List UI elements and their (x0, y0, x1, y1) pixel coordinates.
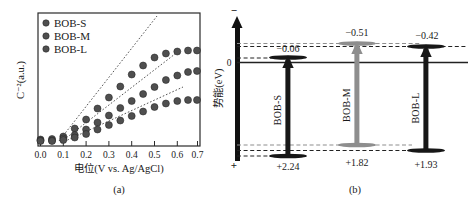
legend-marker-bob-l (43, 46, 49, 52)
bandgap-arrow-bob-l (420, 45, 431, 151)
panel-a-caption: (a) (113, 184, 125, 196)
bandgap-arrow-bob-s (282, 56, 293, 157)
x-tick-label: 0.0 (35, 150, 47, 160)
band-group-bob-m: −0.51 +1.82 BOB-M (338, 27, 376, 168)
x-tick-label: 0.7 (192, 150, 204, 160)
x-tick-label: 0.6 (171, 150, 183, 160)
cb-value-bob-l: −0.42 (415, 30, 438, 41)
legend-label-bob-m: BOB-M (54, 30, 90, 42)
figure-container: 0.0 0.1 0.2 0.3 0.4 0.5 0.6 0.7 电位(V vs.… (0, 0, 468, 204)
energy-axis (232, 16, 243, 161)
vb-value-bob-l: +1.93 (414, 159, 437, 170)
cb-value-bob-s: −0.06 (276, 43, 299, 54)
panel-b-caption: (b) (349, 184, 362, 196)
vb-value-bob-s: +2.24 (276, 161, 299, 172)
legend-label-bob-s: BOB-S (54, 17, 86, 29)
legend-label-bob-l: BOB-L (54, 43, 87, 55)
x-tick-label: 0.2 (80, 150, 92, 160)
y-axis-title: C⁻²(a.u.) (15, 61, 27, 99)
material-label-bob-s: BOB-S (272, 95, 283, 125)
panel-a: 0.0 0.1 0.2 0.3 0.4 0.5 0.6 0.7 电位(V vs.… (15, 13, 204, 196)
legend-marker-bob-s (43, 20, 49, 26)
axis-zero-label: 0 (227, 58, 232, 68)
x-axis-title: 电位(V vs. Ag/AgCl) (74, 162, 164, 175)
vb-value-bob-m: +1.82 (345, 157, 368, 168)
panel-b: 势能(eV) − 0 + (212, 4, 468, 196)
x-tick-label: 0.1 (57, 150, 69, 160)
x-tick-label: 0.5 (149, 150, 161, 160)
band-group-bob-l: −0.42 +1.93 BOB-L (407, 30, 445, 170)
x-tick-label: 0.3 (103, 150, 115, 160)
axis-top-sign: − (231, 4, 237, 16)
x-tick-label: 0.4 (126, 150, 138, 160)
x-tick-labels: 0.0 0.1 0.2 0.3 0.4 0.5 0.6 0.7 (35, 150, 204, 160)
material-label-bob-l: BOB-L (410, 93, 421, 124)
panel-b-y-axis-title: 势能(eV) (212, 68, 225, 108)
material-label-bob-m: BOB-M (341, 88, 352, 122)
legend-marker-bob-m (43, 33, 49, 39)
cb-value-bob-m: −0.51 (345, 27, 368, 38)
bandgap-arrow-bob-m (351, 42, 362, 146)
